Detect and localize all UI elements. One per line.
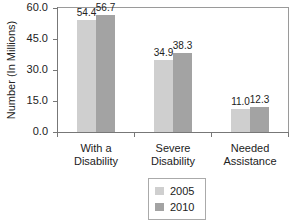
bar-2010-0 [96, 15, 115, 132]
x-tick-mark [134, 132, 135, 137]
category-label-line: Disability [58, 155, 134, 168]
legend-item-2010: 2010 [155, 200, 194, 214]
category-label-line: Severe [135, 142, 211, 155]
category-label-line: Assistance [212, 155, 288, 168]
legend-label-2005: 2005 [170, 185, 194, 197]
bar-2005-1 [154, 60, 173, 132]
bar-2005-0 [77, 20, 96, 132]
category-label-line: Needed [212, 142, 288, 155]
legend-swatch-2005 [155, 187, 164, 195]
x-tick-mark [288, 132, 289, 137]
y-tick-label: 0.0 [10, 125, 48, 137]
bar-2010-2 [250, 107, 269, 132]
legend-item-2005: 2005 [155, 184, 194, 198]
bar-2005-2 [231, 109, 250, 132]
y-tick-label: 15.0 [10, 94, 48, 106]
category-label: NeededAssistance [212, 142, 288, 168]
y-tick-mark [53, 101, 57, 102]
y-tick-mark [53, 8, 57, 9]
y-tick-mark [53, 39, 57, 40]
bar-value-label: 56.7 [91, 2, 121, 13]
y-tick-label: 60.0 [10, 1, 48, 13]
legend-label-2010: 2010 [170, 201, 194, 213]
bar-value-label: 38.3 [168, 40, 198, 51]
x-tick-mark [57, 132, 58, 137]
bar-2010-1 [173, 53, 192, 132]
bar-value-label: 12.3 [245, 94, 275, 105]
category-label: SevereDisability [135, 142, 211, 168]
x-tick-mark [211, 132, 212, 137]
legend: 2005 2010 [148, 178, 206, 220]
y-tick-label: 45.0 [10, 32, 48, 44]
legend-swatch-2010 [155, 203, 164, 211]
category-label-line: With a [58, 142, 134, 155]
y-tick-mark [53, 70, 57, 71]
category-label: With aDisability [58, 142, 134, 168]
y-axis [57, 7, 58, 133]
y-tick-label: 30.0 [10, 63, 48, 75]
x-axis [57, 132, 289, 133]
category-label-line: Disability [135, 155, 211, 168]
